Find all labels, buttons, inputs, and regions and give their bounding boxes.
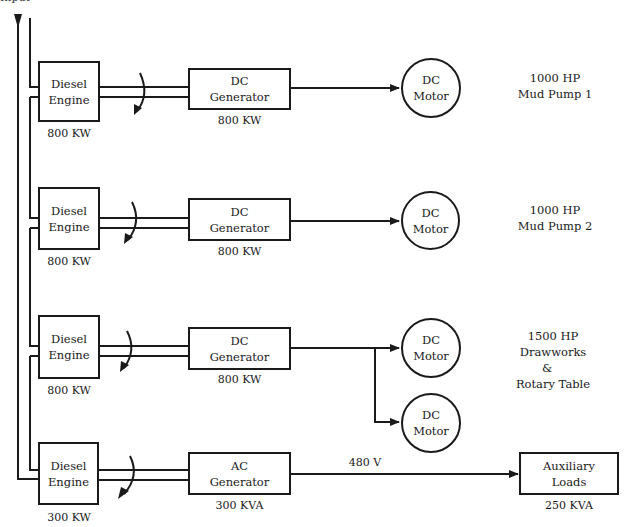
generator-rating: 300 KVA xyxy=(188,499,291,512)
load-name: Mud Pump 2 xyxy=(495,218,615,234)
dc-motor-1: DC Motor xyxy=(401,58,461,118)
generator-label: Generator xyxy=(210,220,270,236)
aux-label: Auxiliary xyxy=(543,458,595,474)
diesel-engine-4: Diesel Engine xyxy=(38,442,99,505)
generator-rating: 800 KW xyxy=(188,373,291,386)
load-hp: 1000 HP xyxy=(495,70,615,86)
generator-label: Generator xyxy=(210,89,270,105)
generator-label: Generator xyxy=(210,349,270,365)
diesel-engine-3: Diesel Engine xyxy=(38,315,100,379)
engine-label: Engine xyxy=(48,474,89,490)
dc-generator-2: DC Generator xyxy=(188,198,291,241)
engine-rating: 800 KW xyxy=(38,127,100,140)
generator-label: Generator xyxy=(210,474,270,490)
motor-label: DC xyxy=(422,407,440,423)
engine-rating: 800 KW xyxy=(38,255,100,268)
fuel-line-inner xyxy=(30,18,38,470)
dc-motor-3a: DC Motor xyxy=(401,318,461,378)
motor-label: DC xyxy=(421,205,439,221)
ac-generator: AC Generator xyxy=(188,452,291,495)
generator-label: DC xyxy=(230,73,248,89)
engine-label: Engine xyxy=(48,347,89,363)
generator-label: DC xyxy=(230,333,248,349)
load-name: Drawworks xyxy=(488,344,618,360)
motor-label: Motor xyxy=(413,348,449,364)
diesel-engine-1: Diesel Engine xyxy=(38,61,100,122)
motor-label: Motor xyxy=(413,221,449,237)
diesel-engine-2: Diesel Engine xyxy=(38,187,100,250)
engine-label: Diesel xyxy=(51,76,87,92)
motor-label: DC xyxy=(422,332,440,348)
load-description-3: 1500 HP Drawworks & Rotary Table xyxy=(488,328,618,392)
load-description-1: 1000 HP Mud Pump 1 xyxy=(495,70,615,102)
engine-label: Engine xyxy=(48,219,89,235)
generator-label: DC xyxy=(230,204,248,220)
load-hp: 1000 HP xyxy=(495,202,615,218)
engine-label: Diesel xyxy=(51,331,87,347)
engine-rating: 300 KW xyxy=(38,511,100,524)
generator-label: AC xyxy=(231,458,248,474)
load-name: Rotary Table xyxy=(488,376,618,392)
generator-rating: 800 KW xyxy=(188,245,291,258)
aux-rating: 250 KVA xyxy=(519,499,619,512)
dc-motor-3b: DC Motor xyxy=(401,393,461,453)
voltage-label: 480 V xyxy=(335,456,395,469)
engine-rating: 800 KW xyxy=(38,384,100,397)
generator-rating: 800 KW xyxy=(188,114,291,127)
motor-label: Motor xyxy=(413,88,449,104)
dc-motor-2: DC Motor xyxy=(401,191,460,250)
aux-label: Loads xyxy=(552,474,587,490)
load-hp: 1500 HP xyxy=(488,328,618,344)
auxiliary-loads: Auxiliary Loads xyxy=(519,452,619,495)
engine-label: Diesel xyxy=(51,203,87,219)
motor-label: Motor xyxy=(413,423,449,439)
dc-generator-3: DC Generator xyxy=(188,327,291,370)
load-name: Mud Pump 1 xyxy=(495,86,615,102)
engine-label: Diesel xyxy=(50,458,86,474)
motor-label: DC xyxy=(422,72,440,88)
load-description-2: 1000 HP Mud Pump 2 xyxy=(495,202,615,234)
engine-label: Engine xyxy=(48,92,89,108)
load-ampersand: & xyxy=(476,360,618,376)
dc-generator-1: DC Generator xyxy=(188,68,291,110)
